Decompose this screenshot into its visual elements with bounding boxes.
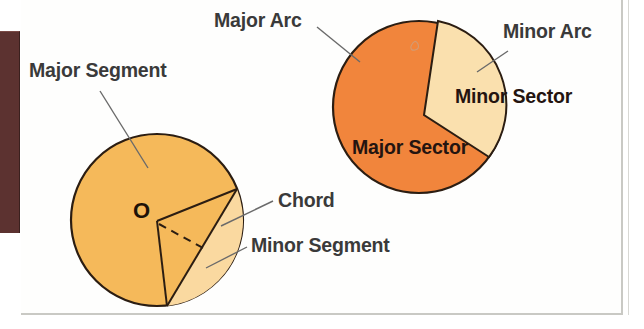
label-minor-sector: Minor Sector (455, 84, 572, 108)
leader-line-major-arc (317, 27, 360, 62)
label-major-arc: Major Arc (214, 8, 302, 32)
label-chord: Chord (278, 188, 335, 212)
figure-page: Major Segment Major Arc Minor Arc Minor … (0, 0, 644, 329)
label-centre-point-o: O (133, 198, 150, 224)
label-major-segment: Major Segment (29, 58, 167, 82)
circle-parts-diagram (0, 0, 644, 329)
label-minor-arc: Minor Arc (503, 19, 592, 43)
label-major-sector: Major Sector (352, 135, 468, 159)
label-minor-segment: Minor Segment (251, 233, 390, 257)
